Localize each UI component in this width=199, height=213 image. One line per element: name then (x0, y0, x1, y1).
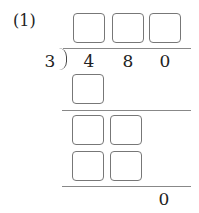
final-remainder: 0 (157, 191, 171, 208)
step2-product-box-ones[interactable] (110, 151, 142, 181)
dividend-digit-ones: 0 (158, 53, 172, 70)
quotient-box-hundreds[interactable] (73, 13, 105, 43)
subtraction-line-1 (62, 110, 191, 111)
step2-remainder-box-ones[interactable] (110, 115, 142, 145)
dividend-digit-hundreds: 4 (82, 53, 96, 70)
subtraction-line-2 (62, 186, 191, 187)
division-bracket (59, 48, 67, 70)
step2-product-box-tens[interactable] (72, 151, 104, 181)
step2-remainder-box-tens[interactable] (72, 115, 104, 145)
divisor: 3 (43, 53, 57, 70)
quotient-box-tens[interactable] (112, 13, 144, 43)
step1-product-box[interactable] (72, 74, 104, 104)
quotient-box-ones[interactable] (149, 13, 181, 43)
problem-number: (1) (13, 13, 36, 29)
division-bar (63, 48, 191, 49)
dividend-digit-tens: 8 (121, 53, 135, 70)
